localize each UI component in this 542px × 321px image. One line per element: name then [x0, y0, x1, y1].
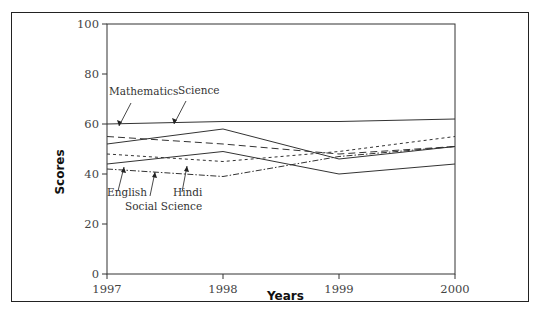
series-line-english [107, 152, 455, 175]
series-line-social-science [107, 147, 455, 177]
annotation-english: English [107, 186, 147, 198]
y-tick-label: 0 [92, 267, 99, 281]
line-chart: 020406080100 1997199819992000 Mathematic… [0, 0, 542, 321]
x-tick-label: 2000 [440, 282, 469, 296]
y-tick-label: 20 [84, 217, 99, 231]
hindi-arrowhead-icon [184, 166, 189, 172]
y-tick-label: 100 [77, 17, 99, 31]
x-axis-title: Years [266, 289, 304, 303]
series-line-hindi [107, 137, 455, 162]
series-line-science [107, 129, 455, 159]
annotation-social-science: Social Science [125, 200, 202, 212]
annotations [118, 101, 187, 196]
y-tick-label: 80 [84, 67, 99, 81]
x-tick-label: 1998 [208, 282, 237, 296]
y-tick-label: 40 [84, 167, 99, 181]
y-axis: 020406080100 [77, 17, 107, 281]
series-line-reference [107, 119, 455, 124]
social-science-arrowhead-icon [152, 172, 157, 178]
annotation-mathematics: Mathematics [109, 85, 178, 97]
y-tick-label: 60 [84, 117, 99, 131]
annotation-hindi: Hindi [173, 186, 203, 198]
series-line-mathematics [107, 137, 455, 155]
series-lines [107, 119, 455, 177]
y-axis-title: Scores [53, 149, 67, 194]
x-tick-label: 1997 [92, 282, 121, 296]
x-tick-label: 1999 [324, 282, 353, 296]
annotation-science: Science [178, 84, 220, 96]
plot-area [107, 24, 455, 274]
